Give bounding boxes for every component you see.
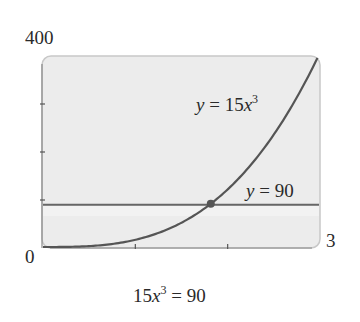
line-label: y = 90 bbox=[244, 180, 294, 201]
curve-label: y = 15x3 bbox=[194, 92, 258, 115]
y-max-label: 400 bbox=[25, 27, 54, 48]
origin-label: 0 bbox=[25, 246, 35, 267]
intersection-point bbox=[207, 200, 215, 208]
chart: 400 0 3 y = 15x3 y = 90 15x3 = 90 bbox=[0, 0, 360, 322]
equation-caption: 15x3 = 90 bbox=[133, 283, 206, 306]
plot-area bbox=[42, 56, 320, 248]
x-max-label: 3 bbox=[326, 230, 336, 251]
plot-lower-band bbox=[43, 206, 319, 216]
